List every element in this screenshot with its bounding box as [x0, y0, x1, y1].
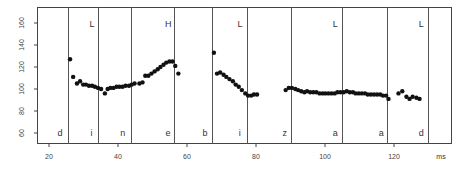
- f0-point: [132, 81, 136, 85]
- f0-point: [78, 79, 82, 83]
- f0-point: [176, 71, 180, 75]
- x-axis: 20406080100120: [45, 144, 400, 161]
- segment-label: i: [90, 128, 92, 138]
- segment-boundaries: [69, 8, 429, 144]
- f0-point: [103, 91, 107, 95]
- tone-label: L: [238, 19, 243, 29]
- tone-label: L: [333, 19, 338, 29]
- x-tick-label: 120: [388, 153, 400, 160]
- x-tick-label: 20: [45, 153, 53, 160]
- x-tick-label: 60: [183, 153, 191, 160]
- y-tick-label: 120: [18, 61, 25, 73]
- y-tick-label: 140: [18, 39, 25, 51]
- segment-label: a: [333, 128, 338, 138]
- y-tick-label: 160: [18, 17, 25, 29]
- f0-point: [417, 97, 421, 101]
- segment-label: b: [202, 128, 207, 138]
- tone-label: L: [419, 19, 424, 29]
- y-axis: 6080100120140160: [18, 17, 38, 137]
- segment-label: e: [166, 128, 171, 138]
- f0-point: [170, 59, 174, 63]
- segment-label: a: [379, 128, 384, 138]
- f0-point: [410, 95, 414, 99]
- x-tick-label: 100: [319, 153, 331, 160]
- f0-point: [71, 75, 75, 79]
- f0-point: [386, 97, 390, 101]
- pitch-track-chart: 6080100120140160 20406080100120 dinebiza…: [0, 0, 470, 172]
- tone-label: H: [165, 19, 172, 29]
- y-tick-label: 60: [18, 129, 25, 137]
- segment-label: z: [282, 128, 287, 138]
- f0-point: [240, 88, 244, 92]
- segment-labels: dinebizaad: [58, 128, 424, 138]
- segment-label: d: [419, 128, 424, 138]
- x-tick-label: 80: [252, 153, 260, 160]
- segment-label: i: [239, 128, 241, 138]
- y-tick-label: 80: [18, 107, 25, 115]
- f0-point: [400, 89, 404, 93]
- f0-point: [140, 80, 144, 84]
- f0-point: [68, 57, 72, 61]
- f0-points: [68, 51, 422, 102]
- plot-frame: [38, 8, 452, 144]
- f0-point: [396, 91, 400, 95]
- x-tick-label: 40: [114, 153, 122, 160]
- y-tick-label: 100: [18, 83, 25, 95]
- segment-label: n: [120, 128, 125, 138]
- f0-point: [173, 64, 177, 68]
- segment-label: d: [58, 128, 63, 138]
- tone-label: L: [90, 19, 95, 29]
- x-axis-unit-label: ms: [436, 153, 446, 160]
- f0-point: [99, 87, 103, 91]
- f0-point: [255, 92, 259, 96]
- f0-point: [237, 85, 241, 89]
- f0-point: [212, 51, 216, 55]
- tone-labels: LHLLL: [90, 19, 424, 29]
